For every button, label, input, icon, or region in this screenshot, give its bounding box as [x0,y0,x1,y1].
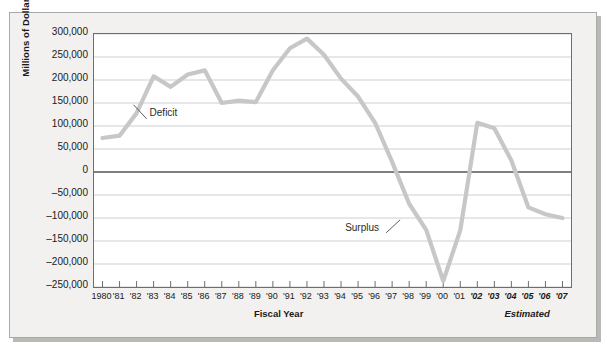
chart-figure: Millions of Dollars 300,000250,000200,00… [0,0,611,355]
annotation-leader-line [386,220,400,233]
y-tick-label: –150,000 [12,233,88,244]
x-tick-label: '07 [555,291,567,301]
y-tick-label: –100,000 [12,210,88,221]
y-tick-label: –50,000 [12,187,88,198]
x-tick-label: '82 [130,291,142,301]
y-tick-label: 200,000 [12,72,88,83]
y-tick-label: 100,000 [12,118,88,129]
x-tick-label: '88 [232,291,244,301]
y-tick-label: 50,000 [12,141,88,152]
data-line-series-0 [103,39,563,281]
x-tick-label: '86 [198,291,210,301]
x-tick-label: '90 [266,291,278,301]
gridlines [94,34,571,287]
x-tick-label: '95 [351,291,363,301]
y-tick-label: 250,000 [12,49,88,60]
x-tick-label: '83 [147,291,159,301]
plot-area [93,33,572,288]
x-axis-tick-marks [103,281,563,287]
x-tick-label: '84 [164,291,176,301]
x-axis-title: Fiscal Year [254,308,303,319]
x-tick-label: '03 [487,291,499,301]
x-tick-label: '01 [453,291,465,301]
y-tick-label: 0 [12,164,88,175]
estimated-caption: Estimated [504,308,549,319]
annotation-label: Deficit [150,107,178,118]
x-tick-label: '06 [538,291,550,301]
x-tick-label: '00 [436,291,448,301]
x-tick-label: '87 [215,291,227,301]
y-tick-label: 300,000 [12,26,88,37]
x-tick-label: '02 [470,291,482,301]
annotation-leader-lines [134,105,401,233]
chart-canvas [94,34,571,287]
y-tick-label: 150,000 [12,95,88,106]
x-tick-label: '97 [385,291,397,301]
x-tick-label: '05 [521,291,533,301]
x-tick-label: '91 [283,291,295,301]
x-tick-label: '92 [300,291,312,301]
x-tick-label: '85 [181,291,193,301]
annotation-label: Surplus [345,222,379,233]
x-tick-label: '99 [419,291,431,301]
x-tick-label: '93 [317,291,329,301]
y-tick-label: –200,000 [12,256,88,267]
x-tick-label: 1980 [92,291,112,301]
x-tick-label: '96 [368,291,380,301]
x-tick-label: '04 [504,291,516,301]
x-tick-label: '81 [113,291,125,301]
x-tick-label: '98 [402,291,414,301]
x-tick-label: '89 [249,291,261,301]
y-tick-label: –250,000 [12,279,88,290]
x-tick-label: '94 [334,291,346,301]
